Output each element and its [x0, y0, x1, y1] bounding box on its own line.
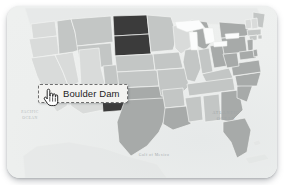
state-alabama [203, 94, 221, 122]
state-texas [117, 98, 167, 156]
state-new-jersey [247, 39, 253, 51]
tooltip-label: Boulder Dam [63, 88, 120, 99]
state-south-dakota [114, 34, 151, 56]
lake-ontario [225, 33, 239, 39]
island-bahamas [253, 140, 261, 146]
island-cuba [245, 154, 269, 164]
state-iowa [153, 52, 183, 70]
state-south-carolina [237, 84, 253, 102]
state-oregon [29, 36, 59, 58]
us-map-widget: .st { stroke: #f2f3f2; stroke-width: 0.7… [0, 0, 284, 185]
state-new-hampshire [251, 18, 258, 29]
state-north-dakota [113, 15, 149, 36]
lake-erie [213, 41, 227, 47]
state-arkansas [162, 88, 185, 108]
state-delaware [253, 49, 258, 57]
map-tooltip[interactable]: Boulder Dam [38, 84, 128, 103]
state-nebraska [115, 54, 155, 72]
state-rhode-island [258, 35, 262, 39]
state-florida [223, 118, 251, 158]
state-montana [71, 16, 113, 46]
